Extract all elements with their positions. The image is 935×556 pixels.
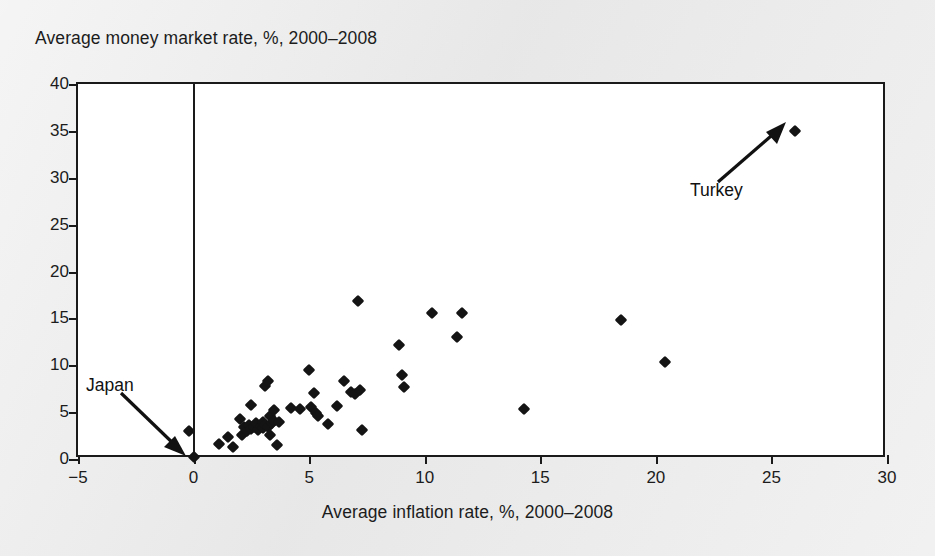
y-tick-label: 20	[50, 262, 69, 282]
y-tick-mark	[69, 84, 78, 86]
x-tick-mark	[887, 455, 889, 464]
annotation-label-turkey: Turkey	[690, 180, 743, 201]
y-axis-title: Average money market rate, %, 2000–2008	[35, 28, 377, 49]
y-tick-label: 30	[50, 168, 69, 188]
x-tick-label: 30	[878, 468, 897, 488]
y-tick-mark	[69, 131, 78, 133]
turkey-callout-arrow	[78, 84, 887, 459]
y-tick-label: 5	[60, 402, 69, 422]
x-axis-title: Average inflation rate, %, 2000–2008	[0, 502, 935, 523]
y-tick-mark	[69, 365, 78, 367]
x-tick-label: 25	[762, 468, 781, 488]
plot-inner: 0510152025303540 −5051015202530	[78, 84, 883, 455]
y-tick-mark	[69, 272, 78, 274]
y-tick-mark	[69, 178, 78, 180]
annotation-label-japan: Japan	[86, 375, 134, 396]
y-tick-mark	[69, 412, 78, 414]
y-tick-label: 10	[50, 355, 69, 375]
y-tick-label: 25	[50, 215, 69, 235]
plot-area: 0510152025303540 −5051015202530	[76, 82, 885, 457]
y-tick-label: 40	[50, 74, 69, 94]
x-tick-label: 5	[304, 468, 313, 488]
x-tick-label: 15	[531, 468, 550, 488]
x-tick-label: 10	[415, 468, 434, 488]
y-tick-label: 35	[50, 121, 69, 141]
y-tick-mark	[69, 459, 78, 461]
y-tick-label: 0	[60, 449, 69, 469]
y-tick-label: 15	[50, 308, 69, 328]
x-tick-label: −5	[68, 468, 87, 488]
y-tick-mark	[69, 318, 78, 320]
scatter-chart-figure: Average money market rate, %, 2000–2008 …	[0, 0, 935, 556]
x-tick-label: 20	[646, 468, 665, 488]
x-tick-label: 0	[189, 468, 198, 488]
y-tick-mark	[69, 225, 78, 227]
